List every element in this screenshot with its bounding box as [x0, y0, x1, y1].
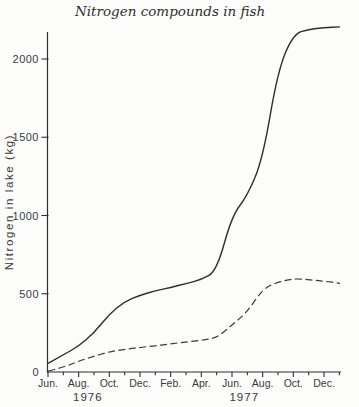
x-tick-label: Aug. [252, 377, 274, 389]
y-tick-label: 2000 [13, 53, 39, 65]
x-tick-label: Dec. [313, 377, 335, 389]
x-tick-label: Feb. [160, 377, 181, 389]
chart-figure: Nitrogen compounds in fish Nitrogen in l… [0, 0, 359, 407]
x-tick-label: Jun. [38, 377, 58, 389]
x-tick-label: Oct. [100, 377, 119, 389]
year-label: 1977 [229, 391, 259, 403]
series-solid-line [48, 27, 340, 364]
chart-title: Nitrogen compounds in fish [74, 3, 265, 19]
series-dashed-line [48, 279, 340, 371]
x-tick-label: Aug. [68, 377, 90, 389]
y-tick-label: 1000 [13, 210, 39, 222]
year-label: 1976 [73, 391, 103, 403]
nitrogen-chart: Nitrogen compounds in fish Nitrogen in l… [0, 0, 359, 407]
y-tick-label: 1500 [13, 131, 39, 143]
x-tick-label: Apr. [192, 377, 211, 389]
plot-area: 0500100015002000Jun.Aug.Oct.Dec.Feb.Apr.… [13, 27, 341, 403]
x-tick-label: Oct. [284, 377, 303, 389]
y-tick-label: 500 [19, 288, 39, 300]
y-axis-title: Nitrogen in lake (kg) [3, 134, 15, 271]
x-tick-label: Dec. [129, 377, 151, 389]
x-tick-label: Jun. [222, 377, 242, 389]
